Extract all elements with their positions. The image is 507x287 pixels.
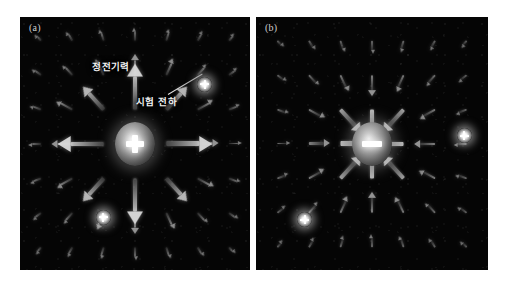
arrow-shaft xyxy=(340,239,344,247)
arrow-shaft xyxy=(308,108,320,116)
arrow-head xyxy=(233,66,239,72)
arrow-head xyxy=(233,214,239,220)
arrow-head xyxy=(286,141,290,145)
field-arrow xyxy=(229,105,240,109)
arrow-head xyxy=(313,200,319,206)
arrow-shaft xyxy=(228,246,233,251)
annotation-electrostatic-force: 정전기력 xyxy=(92,59,129,73)
field-arrow xyxy=(277,240,283,247)
arrow-head xyxy=(418,113,425,121)
field-arrow xyxy=(100,29,104,41)
arrow-head xyxy=(55,98,62,106)
arrow-shaft xyxy=(339,108,356,126)
arrow-shaft xyxy=(459,108,467,112)
field-arrow xyxy=(430,40,435,49)
arrow-head xyxy=(459,239,465,245)
arrow-head xyxy=(98,28,103,33)
arrow-head xyxy=(230,32,236,38)
arrow-shaft xyxy=(166,141,199,146)
arrow-head xyxy=(167,254,172,259)
arrow-shaft xyxy=(397,74,404,86)
arrow-head xyxy=(310,236,315,241)
field-arrow xyxy=(166,58,174,75)
arrow-head xyxy=(236,102,241,107)
arrow-shaft xyxy=(71,141,104,146)
field-arrow xyxy=(426,202,435,212)
arrow-shaft xyxy=(340,74,347,86)
arrow-shaft xyxy=(134,31,136,40)
arrow-shaft xyxy=(61,177,73,185)
arrow-shaft xyxy=(397,200,404,212)
arrow-shaft xyxy=(197,102,209,110)
arrow-shaft xyxy=(277,174,285,178)
arrow-shaft xyxy=(228,212,234,217)
field-arrow xyxy=(67,31,72,40)
arrow-head xyxy=(56,182,63,190)
arrow-head xyxy=(342,195,350,202)
arrow-shaft xyxy=(371,238,373,247)
arrow-head xyxy=(315,80,321,86)
arrow-head xyxy=(127,211,143,224)
arrow-shaft xyxy=(277,108,285,112)
arrow-head xyxy=(311,44,316,49)
field-arrow xyxy=(166,178,187,201)
arrow-shaft xyxy=(37,36,42,41)
arrow-head xyxy=(280,42,286,48)
arrow-head xyxy=(65,31,70,36)
arrow-head xyxy=(236,178,241,183)
arrow-shaft xyxy=(165,177,182,195)
arrow-shaft xyxy=(166,32,170,40)
field-arrow xyxy=(166,212,174,229)
arrow-head xyxy=(393,195,401,202)
arrow-shaft xyxy=(428,74,436,82)
arrow-head xyxy=(344,85,352,92)
annotation-test-charge: 시험 전하 xyxy=(136,94,177,108)
figure-canvas: (a) 정전기력시험 전하 (b) xyxy=(0,0,507,287)
arrow-head xyxy=(208,181,215,189)
arrow-head xyxy=(168,57,176,64)
arrow-head xyxy=(28,142,32,146)
arrow-shaft xyxy=(339,161,356,179)
field-arrow xyxy=(56,178,72,187)
arrow-head xyxy=(33,33,39,39)
arrow-head xyxy=(29,179,34,184)
arrow-head xyxy=(340,234,345,239)
arrow-head xyxy=(58,136,71,152)
arrow-shaft xyxy=(431,241,436,247)
arrow-head xyxy=(212,139,218,147)
arrow-head xyxy=(455,111,460,116)
arrow-shaft xyxy=(277,74,283,79)
field-arrow xyxy=(426,75,435,85)
arrow-head xyxy=(457,77,463,83)
arrow-head xyxy=(52,140,58,148)
arrow-head xyxy=(132,27,136,31)
arrow-shaft xyxy=(197,177,209,185)
field-arrow xyxy=(340,235,344,247)
field-arrow xyxy=(309,109,325,118)
arrow-shaft xyxy=(229,143,238,145)
arrow-head xyxy=(66,252,71,257)
arrow-shaft xyxy=(388,161,405,179)
field-arrow xyxy=(229,68,237,74)
arrow-shaft xyxy=(101,32,105,40)
arrow-head xyxy=(203,218,209,224)
arrow-head xyxy=(371,49,375,53)
arrow-head xyxy=(202,63,208,69)
field-arrow xyxy=(309,169,325,178)
arrow-shaft xyxy=(421,142,436,144)
arrow-shaft xyxy=(229,105,237,109)
arrow-head xyxy=(99,254,104,259)
field-arrow xyxy=(100,247,104,259)
field-arrow xyxy=(229,178,240,182)
field-arrow xyxy=(83,178,104,201)
arrow-shaft xyxy=(35,212,41,217)
field-arrow xyxy=(430,238,435,247)
test-charge xyxy=(197,77,212,92)
arrow-head xyxy=(418,167,425,175)
arrow-head xyxy=(207,97,214,105)
arrow-head xyxy=(394,85,402,92)
field-arrow xyxy=(396,196,404,213)
arrow-head xyxy=(79,83,94,98)
field-arrow xyxy=(419,109,435,118)
arrow-head xyxy=(131,54,139,60)
